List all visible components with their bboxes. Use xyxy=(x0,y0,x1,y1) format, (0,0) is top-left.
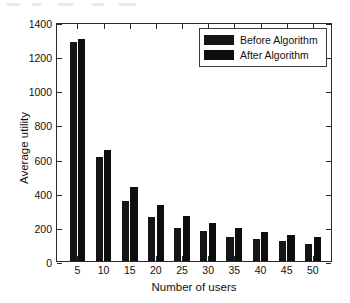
bar-before-40 xyxy=(253,239,260,261)
y-axis-title: Average utility xyxy=(18,78,30,218)
x-tick-label: 35 xyxy=(229,264,241,276)
x-tick-mark-top xyxy=(182,24,183,29)
chart-legend: Before Algorithm After Algorithm xyxy=(199,28,327,67)
y-tick-mark-right xyxy=(326,229,331,230)
y-tick-label: 800 xyxy=(34,120,52,132)
y-tick-mark-right xyxy=(326,126,331,127)
y-tick-label: 1000 xyxy=(29,86,52,98)
bar-after-30 xyxy=(209,223,216,261)
x-tick-label: 20 xyxy=(150,264,162,276)
x-tick-mark-top xyxy=(156,24,157,29)
bar-after-20 xyxy=(157,205,164,261)
x-tick-label: 5 xyxy=(74,264,80,276)
y-tick-label: 400 xyxy=(34,189,52,201)
y-tick-mark xyxy=(57,58,62,59)
y-tick-mark xyxy=(57,161,62,162)
legend-item-before: Before Algorithm xyxy=(204,33,322,47)
legend-swatch-after xyxy=(204,50,234,60)
y-tick-mark xyxy=(57,229,62,230)
bar-before-20 xyxy=(148,217,155,261)
bar-after-40 xyxy=(261,232,268,261)
bar-before-50 xyxy=(305,244,312,261)
x-tick-mark-top xyxy=(77,24,78,29)
bar-before-10 xyxy=(96,157,103,261)
x-tick-label: 30 xyxy=(202,264,214,276)
y-tick-label: 0 xyxy=(46,257,52,269)
y-tick-mark xyxy=(57,263,62,264)
bar-after-35 xyxy=(235,228,242,261)
bar-after-25 xyxy=(183,216,190,261)
bar-after-50 xyxy=(314,237,321,261)
bar-after-45 xyxy=(287,235,294,261)
chart-figure: 0200400600800100012001400 51015202530354… xyxy=(0,0,350,303)
scan-artifact xyxy=(6,3,20,6)
y-tick-mark-right xyxy=(326,92,331,93)
y-tick-mark-right xyxy=(326,161,331,162)
bar-before-15 xyxy=(122,201,129,261)
x-tick-label: 50 xyxy=(307,264,319,276)
legend-swatch-before xyxy=(204,35,234,45)
legend-label-after: After Algorithm xyxy=(240,49,309,61)
y-tick-mark xyxy=(57,24,62,25)
y-tick-label: 1400 xyxy=(29,18,52,30)
bar-before-35 xyxy=(226,237,233,261)
y-tick-label: 600 xyxy=(34,155,52,167)
legend-label-before: Before Algorithm xyxy=(240,34,318,46)
x-tick-label: 25 xyxy=(176,264,188,276)
y-tick-mark-right xyxy=(326,24,331,25)
legend-item-after: After Algorithm xyxy=(204,48,322,62)
bar-before-5 xyxy=(70,42,77,261)
y-tick-label: 1200 xyxy=(29,52,52,64)
x-tick-label: 10 xyxy=(98,264,110,276)
y-tick-mark xyxy=(57,126,62,127)
scan-artifact xyxy=(58,3,74,6)
x-axis-title: Number of users xyxy=(56,281,332,293)
scan-artifact xyxy=(92,3,104,6)
x-tick-label: 15 xyxy=(124,264,136,276)
x-tick-mark-top xyxy=(130,24,131,29)
bar-after-5 xyxy=(78,39,85,261)
y-tick-mark xyxy=(57,92,62,93)
scan-artifact xyxy=(32,3,42,6)
bar-before-25 xyxy=(174,228,181,261)
x-tick-label: 40 xyxy=(255,264,267,276)
bar-before-45 xyxy=(279,241,286,261)
scan-artifact xyxy=(118,3,136,6)
y-tick-mark xyxy=(57,195,62,196)
x-tick-label: 45 xyxy=(281,264,293,276)
bar-after-10 xyxy=(104,150,111,261)
y-tick-label: 200 xyxy=(34,223,52,235)
x-tick-mark-top xyxy=(104,24,105,29)
bar-before-30 xyxy=(200,231,207,261)
bar-after-15 xyxy=(130,187,137,261)
y-tick-mark-right xyxy=(326,263,331,264)
y-tick-mark-right xyxy=(326,195,331,196)
